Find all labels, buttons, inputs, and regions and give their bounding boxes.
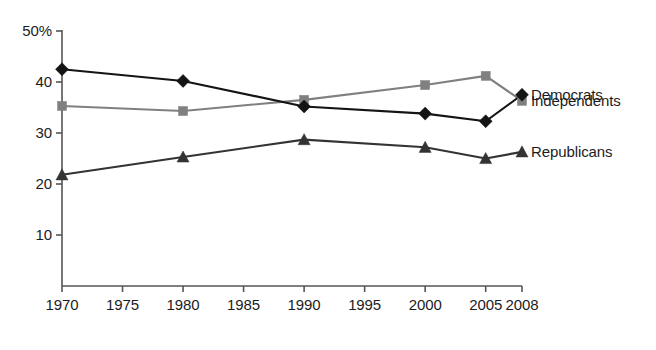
series-label-democrats: Democrats xyxy=(531,86,603,103)
y-axis-tick-label: 40 xyxy=(36,73,53,90)
x-axis-tick-label: 1995 xyxy=(335,296,395,313)
data-point-marker xyxy=(516,146,528,157)
data-point-marker xyxy=(419,107,432,120)
data-point-marker xyxy=(56,63,69,76)
series-line-independents xyxy=(62,76,522,111)
x-axis-tick-label: 1970 xyxy=(32,296,92,313)
chart-container: 50%40302010 1970197519801985199019952000… xyxy=(0,0,656,350)
y-axis-tick-label: 20 xyxy=(36,175,53,192)
series-line-republicans xyxy=(62,140,522,175)
y-axis-tick-label: 10 xyxy=(36,226,53,243)
y-axis-tick-label: 50% xyxy=(22,22,52,39)
x-axis-tick-label: 1980 xyxy=(153,296,213,313)
x-axis-tick-label: 1985 xyxy=(214,296,274,313)
data-point-marker xyxy=(177,74,190,87)
x-axis-tick-label: 2008 xyxy=(492,296,552,313)
axis-lines xyxy=(62,30,522,286)
y-axis-tick-label: 30 xyxy=(36,124,53,141)
series-label-republicans: Republicans xyxy=(531,143,612,160)
data-point-marker xyxy=(481,71,490,80)
x-axis-tick-label: 1975 xyxy=(93,296,153,313)
data-point-marker xyxy=(421,81,430,90)
data-point-marker xyxy=(58,101,67,110)
axis-ticks xyxy=(56,31,522,292)
data-point-marker xyxy=(179,107,188,116)
data-series-group xyxy=(56,63,529,180)
series-line-democrats xyxy=(62,69,522,121)
x-axis-tick-label: 2000 xyxy=(395,296,455,313)
x-axis-tick-label: 1990 xyxy=(274,296,334,313)
